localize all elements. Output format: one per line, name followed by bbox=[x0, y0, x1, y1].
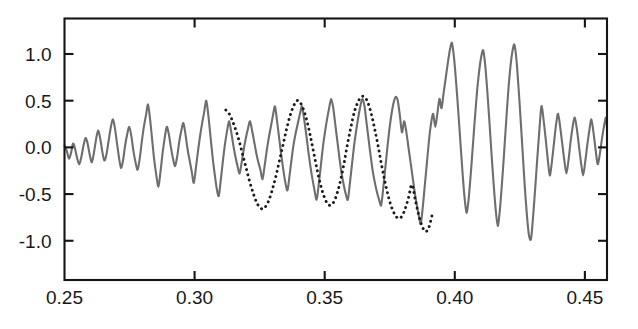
x-tick-label-4: 0.45 bbox=[566, 287, 603, 308]
axis-ticks-group bbox=[65, 19, 608, 281]
axis-frame-group bbox=[65, 19, 608, 281]
y-tick-label-4: -1.0 bbox=[19, 231, 52, 252]
x-axis-tick-labels: 0.250.300.350.400.45 bbox=[46, 287, 603, 308]
y-tick-label-1: 0.5 bbox=[25, 91, 51, 112]
x-tick-label-0: 0.25 bbox=[46, 287, 83, 308]
series-solid-group bbox=[65, 43, 608, 240]
axis-frame bbox=[65, 19, 608, 281]
series-dotted-group bbox=[226, 96, 433, 231]
series-line-synthetic-fit bbox=[226, 96, 433, 231]
x-tick-label-2: 0.35 bbox=[306, 287, 343, 308]
chart-plot-area: 0.250.300.350.400.45 1.00.50.0-0.5-1.0 bbox=[0, 0, 638, 329]
chart-figure: 0.250.300.350.400.45 1.00.50.0-0.5-1.0 bbox=[0, 0, 638, 329]
y-tick-label-3: -0.5 bbox=[19, 184, 52, 205]
y-tick-label-2: 0.0 bbox=[25, 137, 51, 158]
x-tick-label-3: 0.40 bbox=[436, 287, 473, 308]
x-tick-label-1: 0.30 bbox=[176, 287, 213, 308]
series-line-observed-seismogram bbox=[65, 43, 608, 240]
y-tick-label-0: 1.0 bbox=[25, 44, 51, 65]
y-axis-tick-labels: 1.00.50.0-0.5-1.0 bbox=[19, 44, 52, 252]
